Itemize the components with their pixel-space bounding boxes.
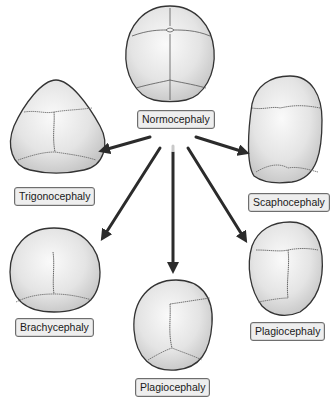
label-scaphocephaly: Scaphocephaly (248, 193, 330, 212)
skull-brachycephaly (10, 228, 100, 312)
arrow-to-plagiocephaly-right (188, 148, 244, 238)
skull-normocephaly (126, 6, 214, 102)
skull-trigonocephaly (11, 80, 105, 173)
arrow-to-scaphocephaly (196, 137, 244, 152)
skull-scaphocephaly (249, 76, 323, 183)
craniosynostosis-diagram: Normocephaly Trigonocephaly Scaphocephal… (0, 0, 331, 404)
arrows (104, 124, 244, 268)
label-plagiocephaly-right: Plagiocephaly (250, 322, 325, 341)
arrow-to-trigonocephaly (104, 137, 150, 150)
skull-plagiocephaly-bottom (134, 280, 212, 370)
skull-plagiocephaly-right (249, 222, 322, 315)
arrow-to-brachycephaly (104, 148, 160, 236)
label-brachycephaly: Brachycephaly (15, 318, 94, 337)
label-trigonocephaly: Trigonocephaly (14, 187, 95, 206)
label-normocephaly: Normocephaly (137, 110, 215, 129)
label-plagiocephaly-bottom: Plagiocephaly (135, 378, 210, 397)
